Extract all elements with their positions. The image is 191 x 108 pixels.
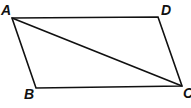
vertex-label-c: C	[183, 85, 191, 101]
diagonal-ac	[12, 18, 182, 86]
vertex-label-d: D	[161, 2, 171, 18]
vertex-label-b: B	[24, 86, 34, 102]
parallelogram-diagram: A D C B	[0, 0, 191, 108]
vertex-label-a: A	[0, 2, 11, 18]
